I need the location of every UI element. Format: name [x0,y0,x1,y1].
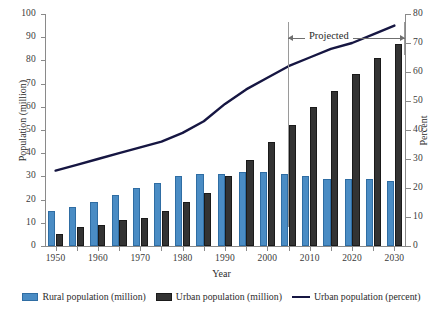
y-axis-right-tick [406,188,411,189]
y-axis-right-tick [406,43,411,44]
y-axis-right-tick [406,246,411,247]
x-axis-tick [98,247,99,251]
y-axis-left-tick [41,246,46,247]
x-axis-tick-label: 1960 [78,253,118,263]
urban-percent-line [56,26,395,171]
line-layer [45,14,405,246]
y-axis-right-tick-label: 0 [413,240,443,250]
y-axis-left-tick-label: 0 [6,240,36,250]
y-axis-left-tick-label: 100 [6,8,36,18]
y-axis-right-tick-label: 20 [413,182,443,192]
y-axis-left-tick-label: 10 [6,217,36,227]
x-axis-tick-label: 2000 [247,253,287,263]
x-axis-tick-label: 1970 [120,253,160,263]
x-axis-tick [204,247,205,251]
y-axis-right-tick-label: 60 [413,66,443,76]
y-axis-right-tick [406,101,411,102]
legend-label-urban: Urban population (million) [176,291,282,302]
x-axis-tick [56,247,57,251]
urban-swatch-icon [156,293,172,301]
x-axis-tick-label: 1980 [163,253,203,263]
x-axis-tick [267,247,268,251]
legend-label-rural: Rural population (million) [42,291,145,302]
y-axis-right-title: Percent [418,91,429,171]
projected-label: Projected [305,30,353,41]
x-axis-tick [225,247,226,251]
projected-divider-line [288,22,289,227]
x-axis-tick [289,247,290,251]
y-axis-right-tick-label: 70 [413,37,443,47]
x-axis-tick [352,247,353,251]
population-chart: 0102030405060708090100 01020304050607080… [0,0,443,312]
y-axis-right-tick-label: 10 [413,211,443,221]
y-axis-right-tick [406,72,411,73]
y-axis-right-tick [406,14,411,15]
x-axis-tick [161,247,162,251]
legend-item-rural: Rural population (million) [22,291,145,302]
x-axis-tick [331,247,332,251]
x-axis-tick [140,247,141,251]
x-axis-tick [373,247,374,251]
x-axis-tick-label: 2010 [290,253,330,263]
x-axis-tick [246,247,247,251]
y-axis-left-tick-label: 90 [6,31,36,41]
y-axis-right-tick [406,130,411,131]
x-axis-tick-label: 1950 [36,253,76,263]
legend-item-urban-percent: Urban population (percent) [292,291,421,302]
line-swatch-icon [292,296,310,298]
chart-legend: Rural population (million) Urban populat… [0,291,443,302]
x-axis-tick [310,247,311,251]
rural-swatch-icon [22,293,38,301]
x-axis-tick-label: 2030 [374,253,414,263]
x-axis-tick-label: 2020 [332,253,372,263]
x-axis-title: Year [0,268,443,279]
y-axis-right-tick [406,217,411,218]
legend-item-urban: Urban population (million) [156,291,282,302]
y-axis-right-tick-label: 80 [413,8,443,18]
x-axis-tick-label: 1990 [205,253,245,263]
x-axis-tick [77,247,78,251]
x-axis-tick [119,247,120,251]
y-axis-right-tick [406,159,411,160]
y-axis-left-title: Population (million) [17,46,28,196]
x-axis-tick [183,247,184,251]
x-axis-tick [394,247,395,251]
legend-label-urban-percent: Urban population (percent) [314,291,421,302]
